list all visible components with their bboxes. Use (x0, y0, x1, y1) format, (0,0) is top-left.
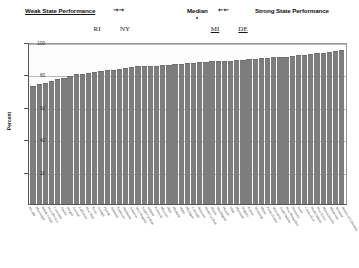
bar (228, 61, 233, 204)
bar (123, 68, 128, 204)
bar (246, 59, 251, 204)
bar (253, 59, 258, 204)
bar (203, 62, 208, 204)
state-callout-mi: MI (211, 25, 220, 33)
strong-performance-label: Strong State Performance (255, 7, 329, 14)
state-callout-de: DE (238, 25, 247, 33)
y-axis-tick-mark (24, 108, 28, 109)
bar (314, 53, 319, 204)
bar (277, 57, 282, 204)
bar (30, 86, 35, 204)
bar (321, 53, 326, 204)
bar (259, 58, 264, 204)
bar (222, 61, 227, 204)
bar (61, 78, 66, 204)
median-label: Median (187, 7, 208, 14)
bar (37, 84, 42, 204)
bar (80, 74, 85, 204)
median-direction-arrows-icon: ←← (218, 6, 229, 14)
weak-direction-arrows-icon: →→ (113, 6, 124, 14)
bar (209, 61, 214, 204)
bar (197, 62, 202, 204)
x-axis-tick-label: District of Columbia (341, 206, 359, 232)
bar (302, 55, 307, 204)
y-axis-tick-mark (24, 173, 28, 174)
bar (308, 54, 313, 204)
plot-area (28, 43, 347, 205)
state-callout-ny: NY (120, 25, 130, 33)
bar (339, 50, 344, 204)
weak-performance-label: Weak State Performance (25, 7, 95, 14)
bar (98, 71, 103, 204)
bar (234, 60, 239, 204)
y-axis-title: Percent (6, 101, 12, 141)
bar (105, 70, 110, 204)
bar (185, 63, 190, 204)
bar (43, 83, 48, 205)
bar (129, 67, 134, 204)
bar (179, 64, 184, 204)
bar (74, 74, 79, 204)
bar (55, 79, 60, 204)
bar (271, 57, 276, 204)
annotation-band: Weak State Performance →→ Median ←← Stro… (0, 0, 356, 22)
bar (166, 65, 171, 204)
bar (49, 81, 54, 204)
bar (333, 51, 338, 204)
bar-series (29, 44, 346, 204)
bar (154, 66, 159, 205)
median-dot-icon (196, 17, 198, 19)
bar (327, 52, 332, 204)
bar (265, 58, 270, 204)
y-axis-tick-mark (24, 75, 28, 76)
y-axis-tick-mark (24, 140, 28, 141)
bar (296, 55, 301, 204)
bar (240, 60, 245, 204)
bar (86, 73, 91, 204)
bar (283, 57, 288, 204)
bar (216, 61, 221, 204)
bar (148, 66, 153, 205)
bar (117, 69, 122, 204)
x-axis-labels: NevadaMississippiRhode IslandNew MexicoL… (28, 206, 347, 266)
state-callout-ri: RI (94, 25, 101, 33)
bar (172, 64, 177, 204)
bar (191, 63, 196, 204)
bar (160, 65, 165, 204)
bar (142, 66, 147, 204)
bar (135, 66, 140, 204)
y-axis-tick-mark (24, 43, 28, 44)
bar (111, 70, 116, 204)
bar (290, 56, 295, 204)
bar (67, 76, 72, 204)
bar (92, 72, 97, 204)
